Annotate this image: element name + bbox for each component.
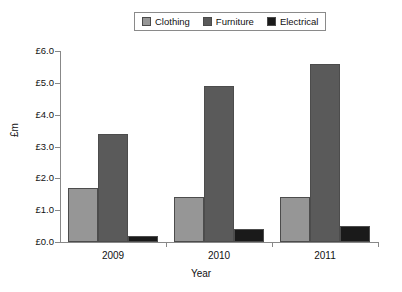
x-tick-label: 2010	[189, 250, 249, 262]
y-tick-label-wrap: £2.0	[16, 173, 54, 183]
y-axis-line	[60, 51, 61, 243]
y-tick	[55, 242, 60, 243]
bar-electrical-2009	[128, 236, 158, 242]
bar-electrical-2011	[340, 226, 370, 242]
y-tick-label-wrap: £4.0	[16, 110, 54, 120]
bar-furniture-2010	[204, 86, 234, 242]
y-tick-label-wrap: £6.0	[16, 46, 54, 56]
x-tick-label: 2011	[295, 250, 355, 262]
y-tick-label-wrap: £0.0	[16, 237, 54, 247]
y-tick-label-wrap: £5.0	[16, 78, 54, 88]
y-tick-label: £3.0	[20, 142, 54, 152]
y-tick-label: £1.0	[20, 205, 54, 215]
y-tick-label: £5.0	[20, 78, 54, 88]
y-tick	[55, 115, 60, 116]
bar-furniture-2009	[98, 134, 128, 242]
y-tick	[55, 51, 60, 52]
x-tick	[166, 242, 167, 247]
bar-clothing-2011	[280, 197, 310, 242]
y-tick-label: £2.0	[20, 173, 54, 183]
y-tick-label: £6.0	[20, 46, 54, 56]
x-axis-title: Year	[0, 268, 402, 280]
x-tick-label: 2009	[83, 250, 143, 262]
y-tick	[55, 178, 60, 179]
y-tick	[55, 147, 60, 148]
bar-clothing-2009	[68, 188, 98, 242]
y-tick	[55, 83, 60, 84]
bar-electrical-2010	[234, 229, 264, 242]
y-tick-label: £4.0	[20, 110, 54, 120]
bar-chart: Clothing Furniture Electrical £0.0£1.0£2…	[0, 0, 402, 292]
bar-clothing-2010	[174, 197, 204, 242]
x-tick	[272, 242, 273, 247]
x-axis-line	[60, 242, 378, 243]
plot-area: £0.0£1.0£2.0£3.0£4.0£5.0£6.0 20092010201…	[0, 0, 402, 292]
y-tick-label-wrap: £1.0	[16, 205, 54, 215]
y-axis-title: £m	[9, 123, 20, 137]
y-tick-label: £0.0	[20, 237, 54, 247]
y-tick	[55, 210, 60, 211]
x-tick	[378, 242, 379, 247]
bar-furniture-2011	[310, 64, 340, 242]
y-tick-label-wrap: £3.0	[16, 142, 54, 152]
